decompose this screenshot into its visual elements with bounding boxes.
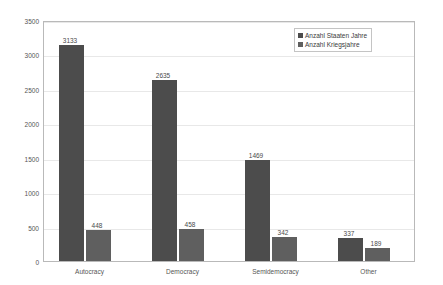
legend-swatch-icon: [298, 33, 303, 38]
bar-value-label: 458: [185, 221, 196, 228]
bar: [179, 229, 204, 261]
bar-value-label: 3133: [63, 37, 77, 44]
bar: [365, 248, 390, 261]
y-axis-tick-label: 3000: [0, 52, 39, 59]
y-axis-tick-label: 500: [0, 224, 39, 231]
chart-legend: Anzahl Staaten Jahre Anzahl Kriegsjahre: [294, 28, 372, 52]
y-axis-tick-label: 1500: [0, 155, 39, 162]
y-axis-tick-label: 3500: [0, 18, 39, 25]
y-axis-tick-label: 2500: [0, 86, 39, 93]
bar-chart: ··· ▪ ··· ▫ ···· ▫ ······· ▫ ·· ▫ · 0500…: [0, 0, 443, 285]
x-axis-tick-label: Democracy: [166, 268, 199, 275]
bar: [245, 160, 270, 261]
bar-value-label: 189: [371, 240, 382, 247]
bar-value-label: 448: [92, 222, 103, 229]
x-axis-tick-label: Other: [360, 268, 376, 275]
bar: [86, 230, 111, 261]
legend-label: Anzahl Staaten Jahre: [305, 31, 367, 40]
legend-swatch-icon: [298, 42, 303, 47]
bar: [338, 238, 363, 261]
clipped-header-text: ··· ▪ ··· ▫ ···· ▫ ······· ▫ ·· ▫ ·: [0, 0, 78, 1]
legend-item: Anzahl Kriegsjahre: [298, 40, 367, 49]
clipped-header-artifact: ··· ▪ ··· ▫ ···· ▫ ······· ▫ ·· ▫ ·: [0, 0, 443, 7]
y-axis-tick-label: 0: [0, 259, 39, 266]
bar-value-label: 342: [278, 229, 289, 236]
x-axis-tick-label: Semidemocracy: [252, 268, 299, 275]
y-axis-tick-label: 2000: [0, 121, 39, 128]
y-axis-tick-label: 1000: [0, 190, 39, 197]
bar: [59, 45, 84, 261]
bar-value-label: 2635: [156, 72, 170, 79]
bar: [152, 80, 177, 261]
x-axis-tick-label: Autocracy: [75, 268, 104, 275]
bar: [272, 237, 297, 261]
bar-value-label: 1469: [249, 152, 263, 159]
legend-label: Anzahl Kriegsjahre: [305, 40, 360, 49]
bar-value-label: 337: [344, 230, 355, 237]
legend-item: Anzahl Staaten Jahre: [298, 31, 367, 40]
